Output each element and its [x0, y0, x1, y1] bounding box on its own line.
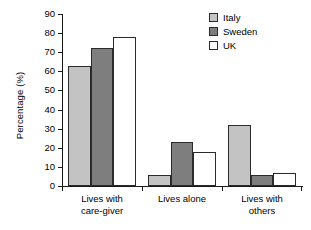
x-tick-mark: [62, 186, 63, 191]
y-tick-label: 80: [44, 28, 55, 38]
legend-label: UK: [223, 41, 236, 51]
y-tick-mark: [58, 110, 62, 111]
category-label-3: Lives with others: [222, 193, 302, 217]
legend-swatch-icon: [209, 13, 218, 22]
y-tick-mark: [58, 129, 62, 130]
bar-sweden-group2: [171, 142, 194, 186]
legend-item-sweden: Sweden: [209, 25, 257, 38]
y-tick-mark: [58, 33, 62, 34]
y-tick-label: 40: [44, 105, 55, 115]
legend-item-italy: Italy: [209, 11, 257, 24]
category-label-1: Lives with care-giver: [62, 193, 142, 217]
x-axis-line: [62, 186, 303, 187]
y-tick-mark: [58, 52, 62, 53]
category-label-2: Lives alone: [142, 193, 222, 205]
legend-label: Sweden: [223, 27, 257, 37]
y-tick-mark: [58, 90, 62, 91]
bar-uk-group3: [273, 173, 296, 186]
y-tick-label: 90: [44, 9, 55, 19]
bar-sweden-group3: [251, 175, 274, 186]
y-tick-label: 20: [44, 143, 55, 153]
y-tick-label: 10: [44, 162, 55, 172]
y-tick-label: 50: [44, 86, 55, 96]
plot-area: 0102030405060708090: [62, 14, 302, 186]
x-tick-mark: [222, 186, 223, 191]
bar-sweden-group1: [91, 48, 114, 186]
bar-uk-group2: [193, 152, 216, 186]
x-tick-mark: [301, 186, 302, 191]
bar-chart: Percentage (%) 0102030405060708090 Lives…: [0, 0, 311, 230]
bar-italy-group1: [68, 66, 91, 186]
y-tick-label: 0: [50, 181, 55, 191]
y-axis-title: Percentage (%): [14, 46, 25, 166]
y-tick-mark: [58, 148, 62, 149]
y-tick-label: 70: [44, 47, 55, 57]
y-tick-mark: [58, 14, 62, 15]
y-tick-mark: [58, 167, 62, 168]
legend-label: Italy: [223, 13, 240, 23]
chart-legend: ItalySwedenUK: [209, 11, 257, 53]
y-tick-label: 30: [44, 124, 55, 134]
x-tick-mark: [142, 186, 143, 191]
y-tick-label: 60: [44, 67, 55, 77]
legend-item-uk: UK: [209, 39, 257, 52]
y-tick-mark: [58, 71, 62, 72]
legend-swatch-icon: [209, 27, 218, 36]
bar-italy-group3: [228, 125, 251, 186]
bar-italy-group2: [148, 175, 171, 186]
bar-uk-group1: [113, 37, 136, 186]
legend-swatch-icon: [209, 41, 218, 50]
